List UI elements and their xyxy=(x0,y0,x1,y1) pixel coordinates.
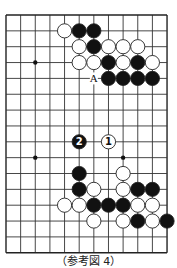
black-stone xyxy=(87,40,101,54)
black-stone xyxy=(145,182,159,196)
white-stone xyxy=(116,182,130,196)
black-stone xyxy=(72,24,86,38)
black-stone xyxy=(145,71,159,85)
white-stone xyxy=(87,214,101,228)
black-stone xyxy=(72,166,86,180)
white-stone xyxy=(101,40,115,54)
white-stone xyxy=(145,198,159,212)
black-stone xyxy=(131,182,145,196)
black-stone xyxy=(131,71,145,85)
white-stone xyxy=(116,55,130,69)
go-board-diagram: A 12 xyxy=(0,0,177,256)
white-stone xyxy=(116,40,130,54)
black-stone xyxy=(101,55,115,69)
black-stone xyxy=(87,198,101,212)
point-label-a: A xyxy=(90,72,98,84)
star-point-icon xyxy=(33,155,37,159)
white-stone: 1 xyxy=(101,135,115,149)
black-stone: 2 xyxy=(72,135,86,149)
black-stone xyxy=(101,71,115,85)
black-stone xyxy=(131,214,145,228)
diagram-caption: （参考図 4） xyxy=(0,256,177,268)
star-point-icon xyxy=(121,155,125,159)
black-stone xyxy=(131,55,145,69)
white-stone xyxy=(72,198,86,212)
white-stone xyxy=(145,55,159,69)
white-stone xyxy=(116,214,130,228)
move-number: 1 xyxy=(105,136,112,147)
white-stone xyxy=(72,40,86,54)
black-stone xyxy=(116,71,130,85)
white-stone xyxy=(131,198,145,212)
white-stone xyxy=(145,214,159,228)
black-stone xyxy=(116,198,130,212)
white-stone xyxy=(87,55,101,69)
black-stone xyxy=(72,182,86,196)
star-point-icon xyxy=(33,60,37,64)
white-stone xyxy=(72,55,86,69)
white-stone xyxy=(87,182,101,196)
white-stone xyxy=(57,24,71,38)
white-stone xyxy=(116,166,130,180)
point-labels: A xyxy=(90,72,98,84)
black-stone xyxy=(160,214,174,228)
white-stone xyxy=(131,40,145,54)
black-stone xyxy=(87,24,101,38)
black-stone xyxy=(101,198,115,212)
move-number: 2 xyxy=(76,136,83,147)
white-stone xyxy=(57,198,71,212)
